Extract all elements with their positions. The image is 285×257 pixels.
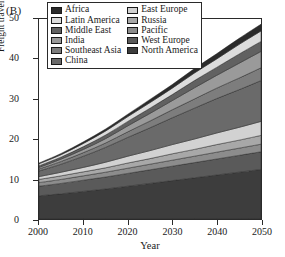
legend-item-north-america: North America <box>127 46 198 56</box>
legend-item-russia: Russia <box>127 15 198 25</box>
y-tick-label: 0 <box>0 215 19 225</box>
legend-swatch-icon <box>51 47 62 54</box>
legend-swatch-icon <box>127 17 138 24</box>
legend-swatch-icon <box>51 7 62 14</box>
legend-label: Russia <box>141 16 166 26</box>
legend-swatch-icon <box>127 27 138 34</box>
legend-swatch-icon <box>51 17 62 24</box>
legend-label: China <box>65 56 88 66</box>
legend-swatch-icon <box>127 47 138 54</box>
x-tick-mark <box>262 220 263 225</box>
x-tick-mark <box>38 220 39 225</box>
legend-item-east-europe: East Europe <box>127 5 198 15</box>
x-tick-label: 2000 <box>18 226 58 237</box>
x-tick-label: 2030 <box>152 226 192 237</box>
legend-swatch-icon <box>127 7 138 14</box>
x-tick-label: 2020 <box>108 226 148 237</box>
legend-label: West Europe <box>141 36 190 46</box>
legend-item-china: China <box>51 56 121 66</box>
x-tick-label: 2040 <box>197 226 237 237</box>
legend-item-middle-east: Middle East <box>51 25 121 35</box>
legend-label: Middle East <box>65 26 111 36</box>
legend-swatch-icon <box>51 58 62 65</box>
x-tick-mark <box>128 220 129 225</box>
y-tick-label: 10 <box>0 175 19 185</box>
chart-legend: AfricaLatin AmericaMiddle EastIndiaSouth… <box>47 2 202 69</box>
legend-label: Africa <box>65 5 89 15</box>
y-tick-mark <box>33 58 38 59</box>
legend-swatch-icon <box>51 27 62 34</box>
legend-label: Latin America <box>65 16 120 26</box>
legend-label: North America <box>141 46 198 56</box>
legend-column-2: East EuropeRussiaPacificWest EuropeNorth… <box>127 5 198 66</box>
y-tick-mark <box>33 139 38 140</box>
x-tick-mark <box>217 220 218 225</box>
x-tick-label: 2050 <box>242 226 282 237</box>
legend-swatch-icon <box>51 37 62 44</box>
y-tick-mark <box>33 99 38 100</box>
x-axis-title: Year <box>38 240 262 251</box>
legend-item-latin-america: Latin America <box>51 15 121 25</box>
y-tick-label: 50 <box>0 13 19 23</box>
legend-label: Southeast Asia <box>65 46 121 56</box>
legend-column-1: AfricaLatin AmericaMiddle EastIndiaSouth… <box>51 5 121 66</box>
x-tick-mark <box>83 220 84 225</box>
y-axis-title: Freight travel (1012 tons-km y-1) <box>0 0 6 56</box>
y-axis-title-prefix: Freight travel (10 <box>0 0 6 52</box>
x-tick-mark <box>172 220 173 225</box>
y-tick-label: 30 <box>0 94 19 104</box>
legend-label: India <box>65 36 85 46</box>
y-tick-mark <box>33 180 38 181</box>
y-tick-label: 40 <box>0 53 19 63</box>
legend-item-africa: Africa <box>51 5 121 15</box>
legend-label: Pacific <box>141 26 167 36</box>
y-tick-label: 20 <box>0 134 19 144</box>
legend-label: East Europe <box>141 5 187 15</box>
legend-swatch-icon <box>127 37 138 44</box>
y-tick-mark <box>33 18 38 19</box>
x-tick-label: 2010 <box>63 226 103 237</box>
